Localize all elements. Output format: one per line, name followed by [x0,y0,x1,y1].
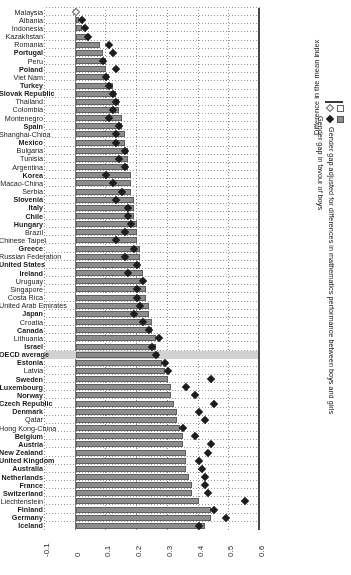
category-label: Costa Rica [0,294,43,302]
chart-row [45,481,260,489]
chart-row [45,318,260,326]
diamond-marker [200,416,208,424]
bar [76,490,193,496]
category-label: Iceland [0,522,43,530]
plot-area [45,8,260,530]
chart-row [45,139,260,147]
category-label: Bulgaria [0,147,43,155]
category-label: Lithuania [0,335,43,343]
diamond-marker [164,367,172,375]
chart-row [45,163,260,171]
bar [76,197,134,203]
chart-row [45,269,260,277]
category-label: United States [0,261,43,269]
chart-row [45,408,260,416]
bar [76,384,171,390]
chart-row [45,359,260,367]
category-label: France [0,482,43,490]
category-label: Spain [0,123,43,131]
diamond-marker [81,24,89,32]
chart-canvas: Gender gap adjusted for differences in m… [0,0,351,575]
chart-row [45,98,260,106]
diamond-marker [154,334,162,342]
bar [76,237,137,243]
category-label: Belgium [0,433,43,441]
bar [76,327,153,333]
chart-legend: Gender gap adjusted for differences in m… [323,95,345,475]
bar [76,180,131,186]
chart-row [45,196,260,204]
category-label: Chinese Taipei [0,237,43,245]
chart-row [45,342,260,350]
category-label: Denmark [0,408,43,416]
category-label: Austria [0,441,43,449]
category-label: Canada [0,327,43,335]
category-label: Norway [0,392,43,400]
category-label: Portugal [0,49,43,57]
chart-row [45,351,260,359]
category-label: OECD average [0,351,43,359]
bar [76,458,187,464]
bar [76,450,187,456]
category-label: Slovenia [0,196,43,204]
category-label: Hong Kong-China [0,424,43,432]
bar [76,376,168,382]
category-label: Germany [0,514,43,522]
chart-row [45,457,260,465]
category-label: Shanghai-China [0,131,43,139]
chart-row [45,334,260,342]
chart-row [45,220,260,228]
chart-row [45,73,260,81]
chart-row [45,65,260,73]
diamond-marker [191,391,199,399]
chart-row [45,24,260,32]
bar [76,482,193,488]
category-label: Greece [0,245,43,253]
diamond-marker [204,448,212,456]
diamond-marker [194,407,202,415]
chart-row [45,90,260,98]
legend-swatch-diamond-adjusted [326,115,334,123]
chart-row [45,171,260,179]
diamond-marker [222,513,230,521]
category-label: Macao-China [0,180,43,188]
bar [76,474,190,480]
legend-swatch-square-adjusted [337,116,344,123]
category-label: Russian Federation [0,253,43,261]
diamond-marker [204,489,212,497]
chart-row [45,285,260,293]
chart-row [45,497,260,505]
chart-row [45,32,260,40]
chart-row [45,81,260,89]
category-label: New Zealand [0,449,43,457]
bar [76,515,211,521]
bar [76,66,107,72]
category-label: Uruguay [0,278,43,286]
chart-row [45,122,260,130]
chart-row [45,432,260,440]
category-label: Croatia [0,318,43,326]
bar [76,433,184,439]
tick-label: 0.6 [257,546,266,557]
tick-label: 0 [73,553,82,557]
tick-label: 0.4 [196,546,205,557]
diamond-marker [207,440,215,448]
diamond-marker [179,424,187,432]
chart-row [45,130,260,138]
tick-label: 0.1 [103,546,112,557]
category-label: Kazakhstan [0,33,43,41]
chart-row [45,391,260,399]
category-label: Netherlands [0,473,43,481]
category-label: Romania [0,41,43,49]
chart-row [45,16,260,24]
chart-row [45,489,260,497]
bar [76,409,177,415]
chart-row [45,514,260,522]
category-label: Montenegro [0,115,43,123]
category-label: Latvia [0,367,43,375]
chart-row [45,212,260,220]
category-label: Estonia [0,359,43,367]
chart-row [45,187,260,195]
bar [76,115,122,121]
chart-row [45,400,260,408]
